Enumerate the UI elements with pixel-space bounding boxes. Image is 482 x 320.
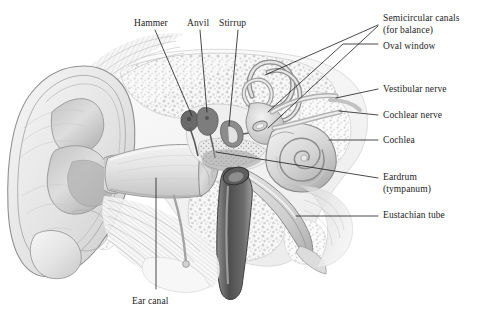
label-vestibular-nerve: Vestibular nerve bbox=[383, 84, 447, 96]
cochlea-group bbox=[266, 124, 336, 192]
label-ear-canal: Ear canal bbox=[132, 296, 169, 308]
label-hammer: Hammer bbox=[134, 18, 168, 30]
label-oval-window: Oval window bbox=[383, 41, 436, 53]
label-semicircular-canals: Semicircular canals (for balance) bbox=[383, 13, 460, 36]
label-eardrum: Eardrum (tympanum) bbox=[383, 172, 431, 195]
label-eustachian-tube: Eustachian tube bbox=[383, 210, 445, 222]
cochlea-apex bbox=[301, 155, 307, 161]
ear-anatomy-diagram: Hammer Anvil Stirrup Semicircular canals… bbox=[0, 0, 482, 320]
label-cochlear-nerve: Cochlear nerve bbox=[383, 110, 442, 122]
label-stirrup: Stirrup bbox=[219, 18, 246, 30]
label-cochlea: Cochlea bbox=[383, 135, 415, 147]
label-anvil: Anvil bbox=[187, 18, 209, 30]
styloid-tip bbox=[183, 261, 190, 268]
